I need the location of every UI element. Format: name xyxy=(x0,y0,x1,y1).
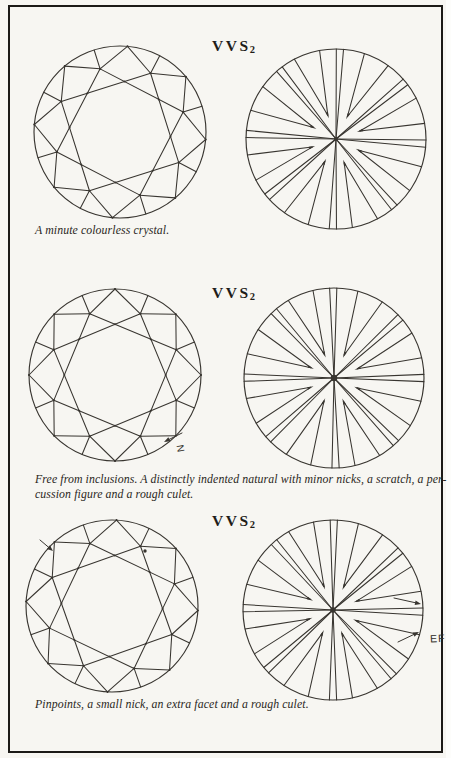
crown-diagram-1 xyxy=(33,45,206,218)
grade-subscript: 2 xyxy=(250,291,255,302)
grade-label: VVS xyxy=(212,284,251,301)
pavilion-diagram-1 xyxy=(246,49,426,229)
caption-1: A minute colourless crystal. xyxy=(35,223,424,238)
grade-subscript: 2 xyxy=(250,44,255,55)
caption-2: Free from inclusions. A distinctly inden… xyxy=(35,472,424,501)
caption-line: Pinpoints, a small nick, an extra facet … xyxy=(35,697,424,712)
pavilion-diagram-2 xyxy=(244,288,424,468)
grade-heading-1: VVS2 xyxy=(11,37,451,55)
extra-facet-arrow-1 xyxy=(394,598,421,605)
extra-facet-arrow-2 xyxy=(398,632,419,642)
grade-label: VVS xyxy=(212,512,251,529)
caption-line: cussion figure and a rough culet. xyxy=(35,487,424,502)
caption-line: A minute colourless crystal. xyxy=(35,223,424,238)
grade-heading-3: VVS2 xyxy=(11,512,451,530)
natural-arrow xyxy=(164,433,182,442)
pavilion-diagram-3 xyxy=(243,520,423,700)
pinpoint-dot xyxy=(143,549,146,552)
grade-label: VVS xyxy=(212,37,251,54)
extra-facet-annotation-label: EF xyxy=(430,632,446,645)
grade-heading-2: VVS2 xyxy=(11,284,451,302)
grade-subscript: 2 xyxy=(250,519,255,530)
caption-line: Free from inclusions. A distinctly inden… xyxy=(35,472,424,487)
crown-diagram-3 xyxy=(25,519,199,693)
caption-3: Pinpoints, a small nick, an extra facet … xyxy=(35,697,424,712)
